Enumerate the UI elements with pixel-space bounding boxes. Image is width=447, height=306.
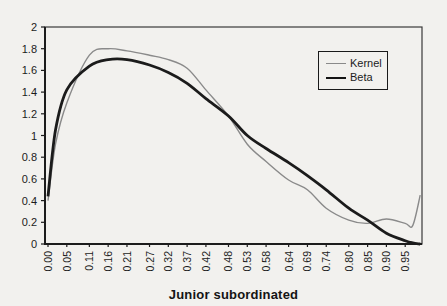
figure-junior-subordinated-chart: 00.20.40.60.811.21.41.61.820.000.050.110… (0, 0, 447, 306)
x-tick-label: 0.48 (222, 251, 234, 272)
x-tick-label: 0.80 (343, 251, 355, 272)
legend-item-kernel: Kernel (326, 58, 387, 69)
x-tick-label: 0.27 (144, 251, 156, 272)
kernel-line-swatch-icon (326, 63, 346, 64)
y-tick-label: 0 (31, 238, 37, 250)
y-tick-label: 1 (31, 130, 37, 142)
y-tick-label: 0.2 (22, 216, 37, 228)
x-tick-label: 0.00 (42, 251, 54, 272)
legend-label-beta: Beta (350, 72, 373, 83)
y-tick-label: 0.8 (22, 151, 37, 163)
x-tick-label: 0.11 (83, 251, 95, 271)
y-tick-label: 1.2 (22, 108, 37, 120)
x-axis-title: Junior subordinated (45, 287, 422, 302)
x-tick-label: 0.85 (362, 251, 374, 272)
x-tick-label: 0.42 (200, 251, 212, 272)
y-tick-label: 0.6 (22, 173, 37, 185)
line-chart-canvas: 00.20.40.60.811.21.41.61.820.000.050.110… (0, 0, 447, 306)
y-tick-label: 1.8 (22, 43, 37, 55)
y-tick-label: 1.4 (22, 86, 37, 98)
x-tick-label: 0.95 (399, 251, 411, 272)
x-tick-label: 0.37 (181, 251, 193, 272)
x-tick-label: 0.21 (121, 251, 133, 272)
y-tick-label: 1.6 (22, 64, 37, 76)
x-tick-label: 0.16 (102, 251, 114, 272)
x-tick-label: 0.32 (162, 251, 174, 272)
x-tick-label: 0.05 (61, 251, 73, 272)
legend: Kernel Beta (318, 51, 388, 90)
beta-line-swatch-icon (326, 77, 346, 79)
legend-label-kernel: Kernel (350, 58, 382, 69)
y-tick-label: 2 (31, 21, 37, 33)
y-tick-label: 0.4 (22, 195, 37, 207)
x-tick-label: 0.53 (241, 251, 253, 272)
x-tick-label: 0.74 (320, 251, 332, 272)
x-tick-label: 0.69 (301, 251, 313, 272)
x-tick-label: 0.90 (380, 251, 392, 272)
legend-item-beta: Beta (326, 72, 387, 83)
x-tick-label: 0.58 (260, 251, 272, 272)
x-tick-label: 0.64 (283, 251, 295, 272)
